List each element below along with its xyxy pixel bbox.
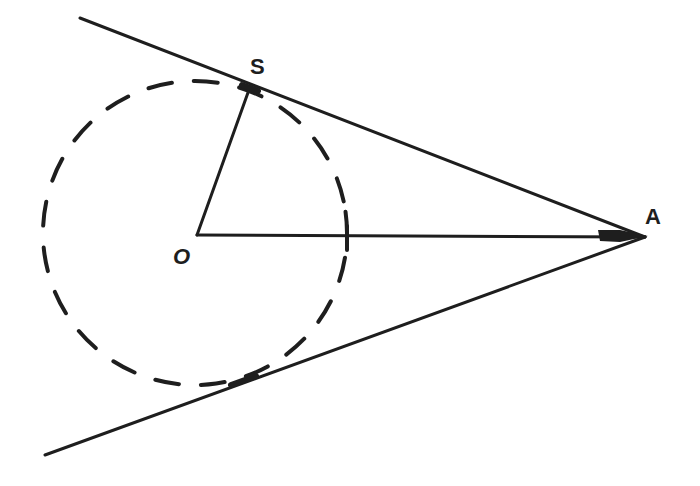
radius-os-line — [197, 87, 250, 235]
tangent-circle-diagram — [0, 0, 700, 486]
label-o: O — [173, 246, 190, 268]
lower-tangent-line — [45, 237, 645, 455]
tangent-point-lower-mark — [231, 376, 256, 385]
segment-oa-line — [197, 235, 645, 237]
upper-tangent-line — [80, 18, 645, 237]
label-a: A — [645, 206, 661, 228]
label-s: S — [250, 56, 265, 78]
dashed-circle — [23, 61, 366, 404]
